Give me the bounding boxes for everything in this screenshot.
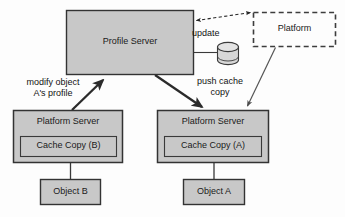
diagram-canvas: Profile Server Platform update Platform … [0,0,345,217]
edge-platform-to-platform-server-right [248,48,276,107]
node-object-b[interactable] [41,180,101,205]
node-cache-copy-a[interactable] [165,137,262,157]
node-platform[interactable] [254,13,336,47]
edge-profile-server-to-platform-server-right [155,75,202,107]
edge-platform-server-left-to-profile-server [72,80,103,110]
database-cylinder-icon [218,42,239,64]
node-cache-copy-b[interactable] [21,137,117,157]
diagram-vector-layer [0,0,345,217]
edge-profile-server-to-platform [197,13,251,21]
node-profile-server[interactable] [67,11,194,75]
node-object-a[interactable] [184,180,245,205]
